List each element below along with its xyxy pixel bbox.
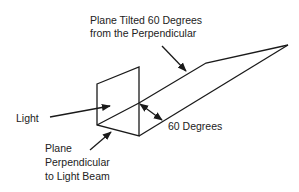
- perpendicular-plane-pointer-arrow: [90, 132, 111, 150]
- tilted-plane-upper-edge: [97, 45, 288, 125]
- perpendicular-plane: [97, 67, 139, 136]
- diagram-canvas: Plane Tilted 60 Degrees from the Perpend…: [0, 0, 299, 192]
- tilted-plane-label-line2: from the Perpendicular: [90, 27, 197, 39]
- light-label: Light: [16, 112, 39, 124]
- angle-double-arrow: [140, 104, 162, 120]
- perpendicular-plane-label-line1: Plane: [45, 142, 72, 154]
- angle-label: 60 Degrees: [168, 120, 222, 132]
- tilted-plane-pointer-arrow: [162, 46, 186, 71]
- light-beam-arrow: [50, 106, 110, 117]
- tilted-plane-label-line1: Plane Tilted 60 Degrees: [90, 14, 202, 26]
- perpendicular-plane-label-line3: to Light Beam: [45, 170, 110, 182]
- perpendicular-plane-label-line2: Perpendicular: [45, 156, 110, 168]
